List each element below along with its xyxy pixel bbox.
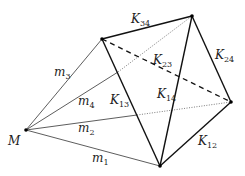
edge-m3 bbox=[26, 39, 102, 130]
label-m1: m1 bbox=[92, 151, 108, 167]
label-M: M bbox=[7, 134, 21, 148]
node-P1 bbox=[158, 164, 162, 168]
node-M bbox=[24, 128, 28, 132]
node-P4 bbox=[190, 14, 194, 18]
label-K12: K12 bbox=[197, 134, 217, 150]
label-m4: m4 bbox=[78, 94, 94, 110]
node-P2 bbox=[229, 100, 233, 104]
edge-K12 bbox=[160, 102, 231, 166]
node-P3 bbox=[100, 37, 104, 41]
tetrahedron-diagram: M m1 m2 m3 m4 K12 K13 K14 K23 K24 K34 bbox=[0, 0, 245, 176]
label-m2: m2 bbox=[78, 121, 94, 137]
label-K24: K24 bbox=[214, 48, 234, 64]
label-m3: m3 bbox=[54, 65, 70, 81]
label-K23: K23 bbox=[152, 53, 172, 69]
label-K13: K13 bbox=[109, 93, 129, 109]
edge-m4-front bbox=[26, 72, 118, 130]
edge-K23 bbox=[102, 39, 231, 102]
label-K14: K14 bbox=[156, 87, 176, 103]
label-K34: K34 bbox=[130, 12, 150, 28]
edge-m2-behind bbox=[137, 102, 231, 115]
